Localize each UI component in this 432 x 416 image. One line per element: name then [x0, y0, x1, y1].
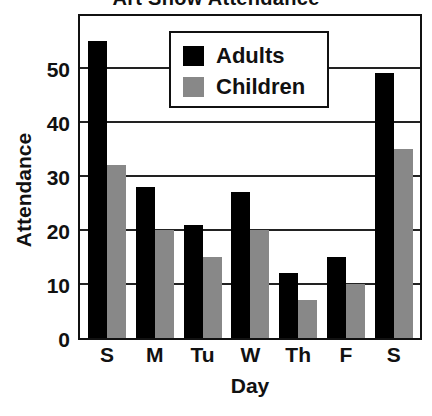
plot-area: Adults Children	[78, 14, 422, 340]
legend-label-adults: Adults	[216, 43, 284, 69]
legend-label-children: Children	[216, 74, 305, 100]
bar-children	[298, 300, 317, 338]
legend: Adults Children	[169, 31, 329, 108]
bar-children	[394, 149, 413, 338]
x-axis-label: Day	[78, 374, 422, 398]
y-tick-label: 0	[30, 329, 70, 351]
y-tick-label: 40	[30, 113, 70, 135]
legend-swatch-adults	[183, 46, 204, 66]
bar-adults	[375, 73, 394, 338]
bar-adults	[231, 192, 250, 338]
bar-adults	[279, 273, 298, 338]
bar-adults	[184, 225, 203, 338]
x-tick-label: W	[226, 343, 274, 367]
gridline	[80, 175, 420, 177]
bar-children	[346, 284, 365, 338]
x-tick-label: Tu	[179, 343, 227, 367]
legend-item-children: Children	[183, 76, 305, 98]
y-tick-label: 20	[30, 221, 70, 243]
legend-swatch-children	[183, 77, 204, 97]
y-tick-label: 50	[30, 59, 70, 81]
x-tick-label: F	[322, 343, 370, 367]
bar-adults	[136, 187, 155, 338]
y-tick-label: 10	[30, 275, 70, 297]
legend-item-adults: Adults	[183, 45, 284, 67]
chart-title: Art Show Attendance	[0, 0, 432, 10]
bar-children	[203, 257, 222, 338]
x-tick-label: S	[83, 343, 131, 367]
x-tick-label: S	[370, 343, 418, 367]
gridline	[80, 121, 420, 123]
bar-adults	[88, 41, 107, 338]
bar-adults	[327, 257, 346, 338]
bar-children	[250, 230, 269, 338]
bar-children	[107, 165, 126, 338]
x-tick-label: Th	[274, 343, 322, 367]
y-tick-label: 30	[30, 167, 70, 189]
bar-children	[155, 230, 174, 338]
x-tick-label: M	[131, 343, 179, 367]
